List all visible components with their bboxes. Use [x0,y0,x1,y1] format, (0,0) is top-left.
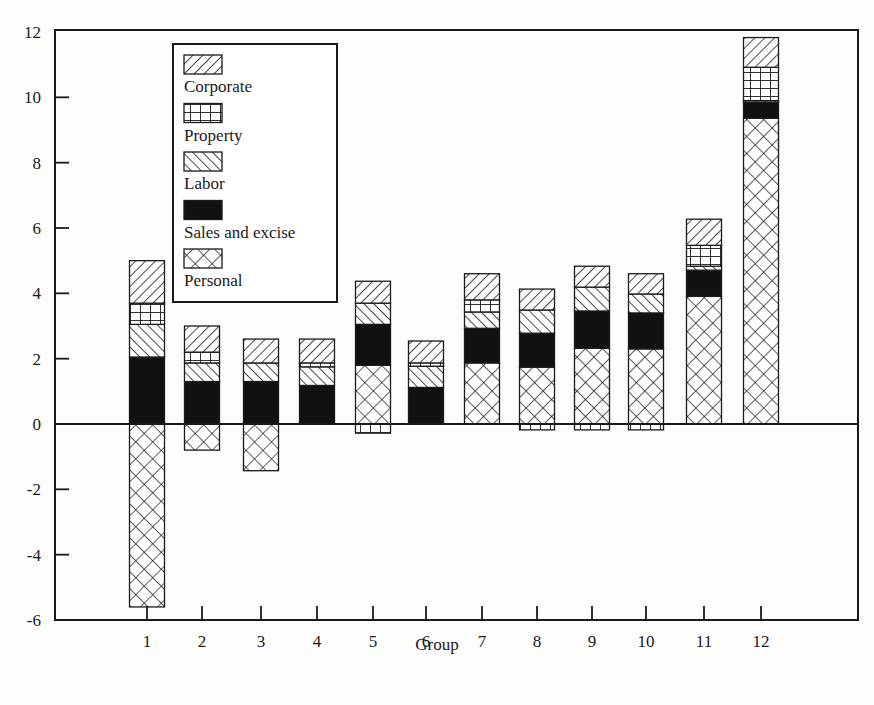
bar-segment-sales-and-excise [520,333,555,367]
bar-segment-corporate [465,274,500,300]
bar-segment-personal [465,363,500,424]
bar-segment-property [130,303,165,324]
bar-segment-personal [687,296,722,424]
x-tick-label: 12 [753,632,770,651]
bar-group-4 [300,339,335,424]
bar-segment-corporate [244,339,279,363]
bar-segment-labor [300,367,335,386]
x-tick-label: 3 [257,632,266,651]
bar-segment-labor [575,287,610,311]
x-tick-label: 9 [588,632,597,651]
bar-segment-sales-and-excise [244,382,279,424]
bar-group-3 [244,339,279,471]
legend-label: Property [184,126,243,145]
legend-swatch-solid [184,201,222,220]
bar-segment-personal [575,348,610,424]
bar-segment-corporate [300,339,335,363]
stacked-bar-chart: -6-4-2024681012123456789101112Group Corp… [0,0,874,705]
bar-segment-sales-and-excise [409,387,444,424]
legend-swatch-backslash [184,152,222,171]
bar-segment-personal [520,367,555,424]
bar-group-5 [356,281,391,433]
bar-group-8 [520,289,555,430]
bar-segment-sales-and-excise [185,382,220,424]
bar-segment-sales-and-excise [130,357,165,424]
bar-segment-sales-and-excise [744,102,779,118]
bar-segment-sales-and-excise [575,311,610,348]
y-tick-label: -4 [27,546,42,565]
bar-segment-labor [520,310,555,333]
bar-segment-corporate [520,289,555,310]
bar-segment-property [465,300,500,312]
bar-segment-property [356,424,391,433]
bar-segment-corporate [687,219,722,245]
chart-canvas: -6-4-2024681012123456789101112Group Corp… [0,0,874,705]
bar-segment-personal [130,424,165,607]
y-tick-label: 0 [33,415,42,434]
bar-segment-property [744,67,779,100]
legend-swatch-slash [184,55,222,74]
bar-segment-sales-and-excise [465,328,500,363]
y-tick-label: 4 [33,284,42,303]
bar-segment-labor [629,294,664,313]
bar-segment-sales-and-excise [300,385,335,424]
bar-group-11 [687,219,722,424]
bar-group-7 [465,274,500,424]
bar-segment-property [185,352,220,363]
bar-segment-sales-and-excise [687,270,722,296]
x-tick-label: 2 [198,632,207,651]
y-tick-label: 8 [33,154,42,173]
bar-group-2 [185,326,220,450]
bar-group-1 [130,261,165,607]
bar-segment-personal [629,349,664,424]
x-tick-label: 4 [313,632,322,651]
y-tick-label: 2 [33,350,42,369]
legend-swatch-grid [184,104,222,123]
bar-segment-corporate [409,341,444,363]
x-axis-label: Group [415,635,458,654]
bar-segment-labor [465,312,500,328]
bar-group-6 [409,341,444,424]
bar-segment-personal [744,118,779,424]
bar-segment-labor [185,363,220,382]
x-tick-label: 11 [696,632,712,651]
legend-label: Personal [184,271,243,290]
legend: CorporatePropertyLaborSales and excisePe… [173,44,337,302]
legend-swatch-crosshatch [184,249,222,268]
bar-segment-property [687,245,722,266]
y-tick-label: 6 [33,219,42,238]
y-tick-label: 10 [24,88,41,107]
bar-segment-sales-and-excise [629,313,664,349]
bar-segment-labor [130,324,165,357]
x-tick-label: 7 [478,632,487,651]
legend-label: Sales and excise [184,223,295,242]
x-tick-label: 10 [638,632,655,651]
y-tick-label: 12 [24,23,41,42]
bar-segment-labor [244,363,279,382]
bar-segment-corporate [356,281,391,303]
bar-segment-corporate [744,38,779,68]
bar-group-12 [744,38,779,424]
legend-label: Corporate [184,77,252,96]
x-tick-label: 8 [533,632,542,651]
bar-segment-labor [409,366,444,387]
bar-segment-personal [244,424,279,471]
bar-segment-personal [185,424,220,450]
bar-group-10 [629,274,664,430]
x-tick-label: 5 [369,632,378,651]
bar-segment-corporate [185,326,220,352]
bar-group-9 [575,266,610,430]
bar-segment-labor [356,303,391,324]
y-tick-label: -2 [27,480,41,499]
x-tick-label: 1 [143,632,152,651]
bar-segment-corporate [629,274,664,294]
bar-segment-corporate [575,266,610,287]
bar-segment-personal [356,365,391,424]
legend-label: Labor [184,174,225,193]
y-tick-label: -6 [27,611,41,630]
bar-segment-sales-and-excise [356,324,391,365]
bar-segment-corporate [130,261,165,303]
